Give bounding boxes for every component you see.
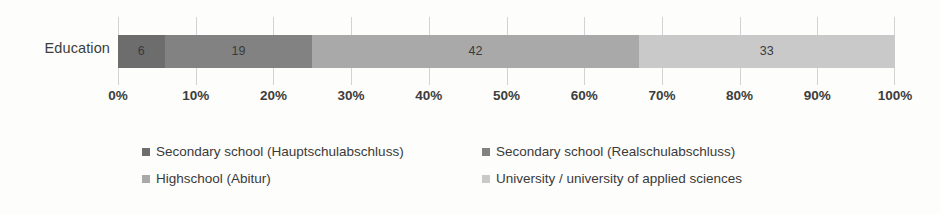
x-tick-80%: 80% [726, 88, 753, 103]
chart-legend: Secondary school (Hauptschulabschluss)Se… [142, 138, 902, 192]
bar-segment-value-2: 19 [231, 45, 245, 58]
bar-segment-value-1: 6 [138, 45, 145, 58]
legend-item-4[interactable]: University / university of applied scien… [482, 172, 882, 186]
x-tick-60%: 60% [571, 88, 598, 103]
legend-item-1[interactable]: Secondary school (Hauptschulabschluss) [142, 145, 482, 159]
legend-swatch-icon-1 [142, 148, 150, 156]
x-tick-40%: 40% [415, 88, 442, 103]
legend-label-3: Highschool (Abitur) [156, 172, 271, 186]
stacked-bar-chart: Education 6194233 0%10%20%30%40%50%60%70… [0, 0, 940, 214]
legend-label-2: Secondary school (Realschulabschluss) [496, 145, 735, 159]
legend-label-1: Secondary school (Hauptschulabschluss) [156, 145, 404, 159]
legend-swatch-icon-2 [482, 148, 490, 156]
x-tick-10%: 10% [182, 88, 209, 103]
bar-segment-1[interactable]: 6 [118, 35, 165, 68]
legend-item-2[interactable]: Secondary school (Realschulabschluss) [482, 145, 882, 159]
legend-swatch-icon-3 [142, 175, 150, 183]
bar-segment-value-3: 42 [468, 45, 482, 58]
stacked-bar-series: 6194233 [118, 35, 895, 68]
x-tick-100%: 100% [878, 88, 913, 103]
bar-segment-2[interactable]: 19 [165, 35, 313, 68]
plot-area: 6194233 [118, 17, 895, 85]
bar-segment-3[interactable]: 42 [312, 35, 638, 68]
x-axis-tick-labels: 0%10%20%30%40%50%60%70%80%90%100% [118, 88, 895, 110]
x-tick-20%: 20% [260, 88, 287, 103]
bar-segment-4[interactable]: 33 [639, 35, 895, 68]
legend-label-4: University / university of applied scien… [496, 172, 742, 186]
x-tick-50%: 50% [493, 88, 520, 103]
legend-swatch-icon-4 [482, 175, 490, 183]
x-tick-70%: 70% [648, 88, 675, 103]
x-tick-30%: 30% [338, 88, 365, 103]
x-tick-90%: 90% [804, 88, 831, 103]
x-tick-0%: 0% [108, 88, 128, 103]
category-label-education: Education [14, 40, 110, 56]
legend-item-3[interactable]: Highschool (Abitur) [142, 172, 482, 186]
bar-segment-value-4: 33 [760, 45, 774, 58]
